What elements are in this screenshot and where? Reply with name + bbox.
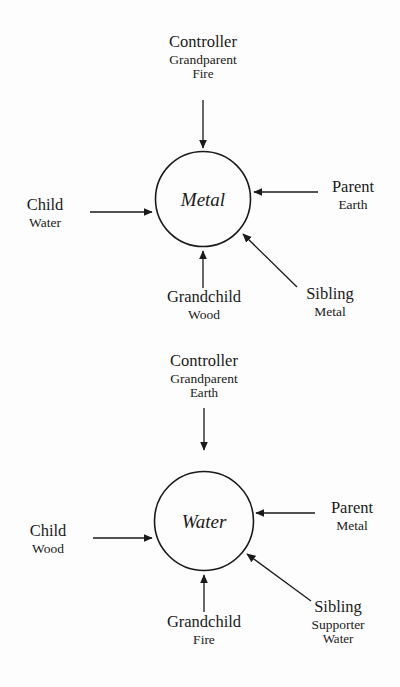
- label-metal-grandchild-line1: Grandchild: [167, 288, 241, 307]
- label-water-child-line1: Child: [30, 522, 67, 541]
- label-water-child-line2: Wood: [30, 541, 67, 556]
- label-water-grandchild: Grandchild Fire: [167, 613, 241, 647]
- label-metal-parent: Parent Earth: [332, 178, 374, 212]
- label-water-controller-line1: Controller: [170, 352, 238, 371]
- label-water-grandchild-line1: Grandchild: [167, 613, 241, 632]
- arrow-water-sibling: [247, 554, 311, 601]
- arrow-metal-sibling: [243, 234, 297, 287]
- node-label-water: Water: [182, 511, 227, 532]
- label-metal-child-line1: Child: [27, 196, 64, 215]
- label-metal-parent-line1: Parent: [332, 178, 374, 197]
- label-water-parent-line2: Metal: [331, 518, 373, 533]
- label-water-sibling: Sibling Supporter Water: [311, 598, 364, 647]
- label-metal-parent-line2: Earth: [332, 197, 374, 212]
- label-metal-child: Child Water: [27, 196, 64, 230]
- label-water-sibling-line2: Supporter: [311, 617, 364, 632]
- label-water-controller-line3: Earth: [170, 386, 238, 401]
- label-metal-controller-line3: Fire: [169, 67, 237, 82]
- label-water-child: Child Wood: [30, 522, 67, 556]
- label-metal-controller: Controller Grandparent Fire: [169, 33, 237, 82]
- label-water-grandchild-line2: Fire: [167, 632, 241, 647]
- label-water-sibling-line1: Sibling: [311, 598, 364, 617]
- label-metal-grandchild: Grandchild Wood: [167, 288, 241, 322]
- label-water-controller-line2: Grandparent: [170, 371, 238, 386]
- label-metal-controller-line1: Controller: [169, 33, 237, 52]
- node-label-metal: Metal: [180, 189, 225, 210]
- label-metal-grandchild-line2: Wood: [167, 307, 241, 322]
- label-metal-sibling-line2: Metal: [306, 304, 354, 319]
- label-water-parent: Parent Metal: [331, 499, 373, 533]
- diagram-canvas: Metal Water: [0, 0, 400, 687]
- label-metal-sibling: Sibling Metal: [306, 285, 354, 319]
- label-water-parent-line1: Parent: [331, 499, 373, 518]
- label-metal-controller-line2: Grandparent: [169, 52, 237, 67]
- label-metal-child-line2: Water: [27, 215, 64, 230]
- label-water-sibling-line3: Water: [311, 632, 364, 647]
- five-element-diagram: Metal Water Controller Grandparent Fire …: [0, 0, 400, 687]
- label-water-controller: Controller Grandparent Earth: [170, 352, 238, 401]
- label-metal-sibling-line1: Sibling: [306, 285, 354, 304]
